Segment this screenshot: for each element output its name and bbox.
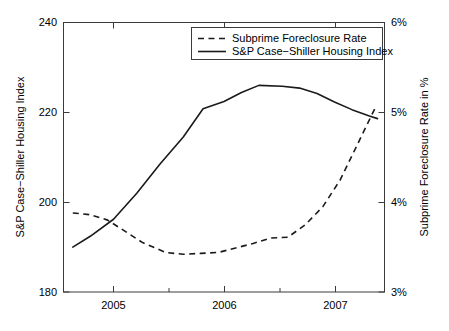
left-tick-label-240: 240 (39, 16, 57, 28)
left-tick-label-180: 180 (39, 286, 57, 298)
left-tick-label-220: 220 (39, 106, 57, 118)
x-tick-label-2006: 2006 (212, 299, 236, 311)
y-axis-title: S&P Case−Shiller Housing Index (14, 76, 26, 237)
right-tick-label-3pct: 3% (391, 286, 407, 298)
legend-label-case-shiller: S&P Case−Shiller Housing Index (232, 45, 393, 57)
right-tick-label-5pct: 5% (391, 106, 407, 118)
chart-legend: Subprime Foreclosure Rate S&P Case−Shill… (192, 28, 394, 60)
right-tick-label-4pct: 4% (391, 196, 407, 208)
y2-axis-title: Subprime Foreclosure Rate in % (418, 77, 430, 236)
x-tick-label-2007: 2007 (323, 299, 347, 311)
legend-label-foreclosure: Subprime Foreclosure Rate (232, 32, 367, 44)
x-tick-label-2005: 2005 (101, 299, 125, 311)
housing-foreclosure-chart: 240 220 200 180 6% 5% 4% 3% 2005 2006 20… (0, 0, 449, 331)
left-tick-label-200: 200 (39, 196, 57, 208)
right-tick-label-6pct: 6% (391, 16, 407, 28)
